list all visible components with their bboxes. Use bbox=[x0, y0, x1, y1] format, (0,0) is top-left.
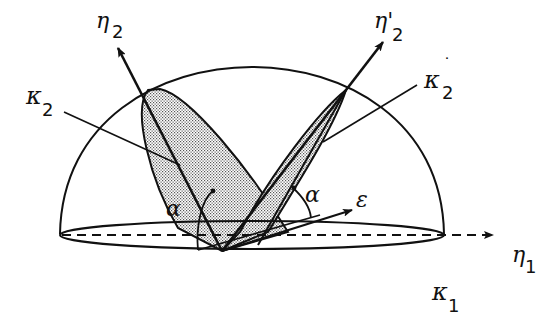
angle-arc-alpha-left-dot bbox=[211, 189, 216, 194]
label-eta2-prime: η' bbox=[374, 8, 393, 33]
hemisphere-diagram: η 2 η' 2 κ 2 κ 2 ˙ α α ε η 1 κ 1 bbox=[0, 0, 559, 336]
label-eta2-sub: 2 bbox=[112, 21, 123, 42]
label-kappa2-sub: 2 bbox=[42, 99, 53, 120]
label-kappa2-prime-mark: ˙ bbox=[443, 55, 451, 74]
label-eta1: η bbox=[512, 242, 525, 267]
label-eta2: η bbox=[96, 8, 109, 33]
angle-arc-alpha-right-dot bbox=[292, 186, 297, 191]
label-kappa2: κ bbox=[25, 82, 42, 110]
label-eta2-prime-sub: 2 bbox=[392, 24, 403, 45]
label-kappa1: κ bbox=[431, 278, 448, 306]
label-eta1-sub: 1 bbox=[525, 256, 536, 277]
label-alpha-left: α bbox=[166, 196, 181, 221]
label-alpha-right: α bbox=[305, 182, 320, 207]
label-epsilon: ε bbox=[356, 187, 368, 212]
label-kappa2-prime-sub: 2 bbox=[442, 82, 453, 103]
label-kappa2-prime: κ bbox=[423, 66, 440, 94]
label-kappa1-sub: 1 bbox=[448, 295, 459, 316]
